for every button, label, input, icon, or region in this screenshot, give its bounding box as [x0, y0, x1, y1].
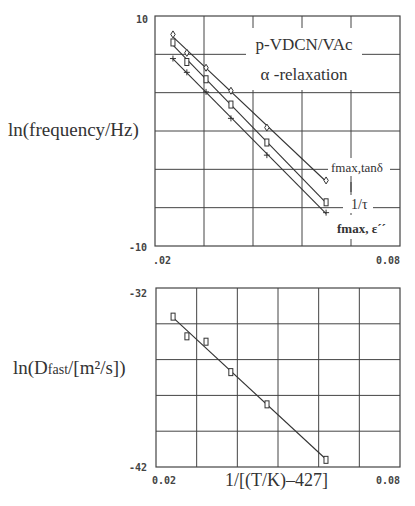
annotation-subtitle: α -relaxation — [261, 65, 348, 84]
square-marker — [265, 139, 269, 146]
top-y-axis-label: ln(frequency/Hz) — [8, 119, 139, 141]
top-ytick-max: 10 — [136, 14, 148, 25]
square-marker — [265, 401, 269, 408]
square-marker — [229, 369, 233, 376]
plus-marker — [228, 115, 234, 121]
legend-epsilon: fmax, ε´´ — [337, 221, 386, 236]
square-marker — [171, 313, 175, 320]
bottom-xtick-max: 0.08 — [376, 475, 400, 486]
bottom-ytick-max: -32 — [129, 288, 147, 299]
square-marker — [204, 76, 208, 83]
square-marker — [185, 59, 189, 66]
bottom-y-label-pre: ln(D — [13, 357, 48, 378]
diamond-marker — [185, 49, 189, 56]
charts-canvas: p-VDCN/VAcα -relaxationfmax,tanδ1/τfmax,… — [0, 0, 415, 506]
square-marker — [324, 199, 328, 206]
legend-tau: 1/τ — [351, 197, 368, 212]
square-marker — [185, 333, 189, 340]
square-marker — [171, 39, 175, 46]
legend-tan-delta: fmax,tanδ — [331, 160, 383, 175]
plus-marker — [323, 210, 329, 216]
bottom-y-label-post: /[m²/s]) — [68, 357, 125, 378]
diamond-marker — [324, 177, 328, 184]
annotation-title: p-VDCN/VAc — [256, 35, 353, 54]
diamond-marker — [265, 124, 269, 131]
square-marker — [229, 101, 233, 108]
bottom-ytick-min: -42 — [129, 462, 147, 473]
top-xtick-max: 0.08 — [376, 255, 400, 266]
grid — [156, 288, 400, 467]
top-ytick-min: -10 — [129, 242, 147, 253]
square-marker — [204, 338, 208, 345]
diamond-marker — [171, 31, 175, 38]
series-0 — [171, 313, 328, 463]
plus-marker — [264, 152, 270, 158]
fit-line — [173, 318, 326, 460]
top-xtick-min: .02 — [153, 255, 171, 266]
bottom-chart — [156, 288, 400, 467]
bottom-xtick-min: 0.02 — [152, 475, 176, 486]
bottom-y-axis-label: ln(Dfast/[m²/s]) — [13, 357, 125, 379]
bottom-x-axis-label: 1/[(T/K)–427] — [225, 470, 328, 491]
bottom-y-label-sub: fast — [48, 362, 68, 377]
square-marker — [324, 456, 328, 463]
